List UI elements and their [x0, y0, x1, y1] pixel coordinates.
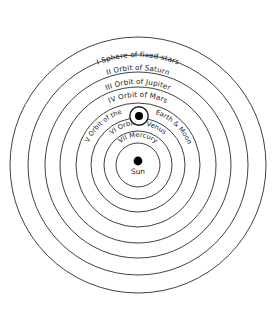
- sun-body: Sun: [131, 157, 145, 176]
- sun-label: Sun: [131, 167, 145, 176]
- copernican-system-diagram: I Sphere of fixed stars II Orbit of Satu…: [0, 0, 277, 309]
- label-orbit-of-jupiter: III Orbit of Jupiter: [104, 77, 172, 92]
- sun-dot: [134, 157, 143, 166]
- earth-moon-body: [130, 107, 148, 125]
- earth-dot: [135, 112, 143, 120]
- label-orbit-of-jupiter-text: III Orbit of Jupiter: [104, 77, 172, 92]
